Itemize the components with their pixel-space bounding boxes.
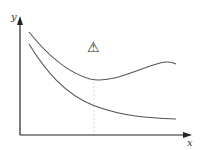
y-axis-label: y: [11, 11, 17, 22]
diagram-canvas: [0, 0, 204, 150]
y-axis-arrow-icon: [17, 16, 23, 25]
warning-icon: ⚠: [87, 39, 100, 55]
x-axis-label: x: [187, 137, 193, 148]
upper-curve: [29, 32, 176, 80]
